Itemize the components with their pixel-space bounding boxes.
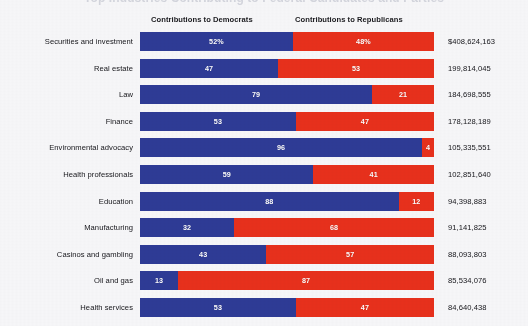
row-total-amount: 94,398,883	[448, 192, 487, 211]
row-total-amount: 184,698,555	[448, 85, 491, 104]
stacked-bar: 52%48%	[140, 32, 434, 51]
chart-title: Top Industries Contributing to Federal C…	[0, 0, 528, 5]
chart-plot-area: Securities and investment52%48%$408,624,…	[0, 32, 528, 325]
chart-row: Securities and investment52%48%$408,624,…	[0, 32, 528, 59]
category-label: Environmental advocacy	[0, 138, 133, 157]
row-total-amount: 88,093,803	[448, 245, 487, 264]
bar-segment-republicans: 47	[296, 112, 434, 131]
bar-value-democrats: 13	[155, 276, 163, 285]
category-label: Law	[0, 85, 133, 104]
bar-value-republicans: 47	[361, 117, 369, 126]
bar-value-republicans: 12	[412, 197, 420, 206]
chart-row: Education881294,398,883	[0, 192, 528, 219]
bar-value-democrats: 79	[252, 90, 260, 99]
category-label: Finance	[0, 112, 133, 131]
bar-value-democrats: 32	[183, 223, 191, 232]
legend-label-democrats: Contributions to Democrats	[151, 15, 253, 24]
chart-row: Finance5347178,128,189	[0, 112, 528, 139]
stacked-bar: 3268	[140, 218, 434, 237]
row-total-amount: 105,335,551	[448, 138, 491, 157]
category-label: Manufacturing	[0, 218, 133, 237]
bar-value-democrats: 96	[277, 143, 285, 152]
bar-segment-democrats: 96	[140, 138, 422, 157]
bar-value-republicans: 57	[346, 250, 354, 259]
stacked-bar: 5941	[140, 165, 434, 184]
category-label: Oil and gas	[0, 271, 133, 290]
row-total-amount: 199,814,045	[448, 59, 491, 78]
chart-row: Law7921184,698,555	[0, 85, 528, 112]
stacked-bar: 1387	[140, 271, 434, 290]
row-total-amount: 178,128,189	[448, 112, 491, 131]
bar-segment-democrats: 32	[140, 218, 234, 237]
bar-segment-republicans: 87	[178, 271, 434, 290]
bar-value-democrats: 88	[265, 197, 273, 206]
bar-segment-republicans: 47	[296, 298, 434, 317]
bar-value-republicans: 47	[361, 303, 369, 312]
row-total-amount: 84,640,438	[448, 298, 487, 317]
bar-segment-democrats: 52%	[140, 32, 293, 51]
bar-value-republicans: 48%	[356, 37, 371, 46]
bar-value-democrats: 52%	[209, 37, 224, 46]
row-total-amount: 102,851,640	[448, 165, 491, 184]
bar-segment-democrats: 53	[140, 112, 296, 131]
bar-value-democrats: 53	[214, 117, 222, 126]
chart-row: Manufacturing326891,141,825	[0, 218, 528, 245]
bar-value-republicans: 53	[352, 64, 360, 73]
chart-row: Environmental advocacy964105,335,551	[0, 138, 528, 165]
bar-segment-democrats: 88	[140, 192, 399, 211]
stacked-bar: 4357	[140, 245, 434, 264]
bar-value-democrats: 53	[214, 303, 222, 312]
chart-legend: Contributions to Democrats Contributions…	[140, 15, 434, 29]
bar-value-democrats: 59	[223, 170, 231, 179]
stacked-bar: 5347	[140, 298, 434, 317]
chart-row: Health services534784,640,438	[0, 298, 528, 325]
bar-segment-republicans: 48%	[293, 32, 434, 51]
stacked-bar: 4753	[140, 59, 434, 78]
bar-segment-republicans: 12	[399, 192, 434, 211]
row-total-amount: 91,141,825	[448, 218, 487, 237]
bar-value-republicans: 21	[399, 90, 407, 99]
bar-segment-republicans: 57	[266, 245, 434, 264]
bar-value-republicans: 68	[330, 223, 338, 232]
legend-label-republicans: Contributions to Republicans	[295, 15, 403, 24]
bar-segment-democrats: 43	[140, 245, 266, 264]
bar-segment-republicans: 4	[422, 138, 434, 157]
bar-value-republicans: 41	[370, 170, 378, 179]
bar-segment-republicans: 68	[234, 218, 434, 237]
row-total-amount: $408,624,163	[448, 32, 495, 51]
bar-segment-republicans: 53	[278, 59, 434, 78]
chart-row: Oil and gas138785,534,076	[0, 271, 528, 298]
bar-segment-democrats: 79	[140, 85, 372, 104]
bar-value-republicans: 4	[426, 143, 430, 152]
category-label: Health services	[0, 298, 133, 317]
category-label: Casinos and gambling	[0, 245, 133, 264]
bar-segment-republicans: 41	[313, 165, 434, 184]
bar-segment-democrats: 53	[140, 298, 296, 317]
stacked-bar: 8812	[140, 192, 434, 211]
bar-value-democrats: 43	[199, 250, 207, 259]
bar-value-republicans: 87	[302, 276, 310, 285]
bar-segment-democrats: 59	[140, 165, 313, 184]
stacked-bar: 964	[140, 138, 434, 157]
chart-row: Real estate4753199,814,045	[0, 59, 528, 86]
category-label: Health professionals	[0, 165, 133, 184]
category-label: Education	[0, 192, 133, 211]
category-label: Real estate	[0, 59, 133, 78]
bar-segment-republicans: 21	[372, 85, 434, 104]
bar-segment-democrats: 13	[140, 271, 178, 290]
row-total-amount: 85,534,076	[448, 271, 487, 290]
chart-row: Casinos and gambling435788,093,803	[0, 245, 528, 272]
bar-segment-democrats: 47	[140, 59, 278, 78]
category-label: Securities and investment	[0, 32, 133, 51]
stacked-bar: 7921	[140, 85, 434, 104]
chart-row: Health professionals5941102,851,640	[0, 165, 528, 192]
stacked-bar: 5347	[140, 112, 434, 131]
bar-value-democrats: 47	[205, 64, 213, 73]
